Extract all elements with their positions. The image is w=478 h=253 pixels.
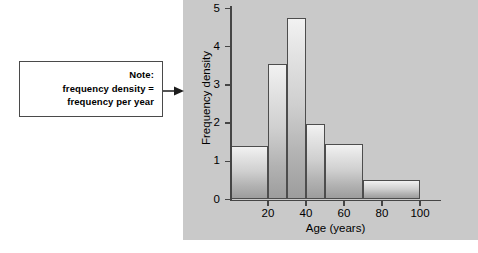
x-axis-title: Age (years) [230, 222, 441, 234]
y-axis-tick [225, 84, 230, 86]
note-line: frequency per year [63, 95, 154, 109]
figure-screenshot: 012345 20406080100 Frequency density Age… [0, 0, 478, 253]
y-axis-tick [225, 199, 230, 201]
histogram-bar [306, 124, 325, 200]
note-line: frequency density = [63, 82, 154, 96]
y-axis-tick [225, 46, 230, 48]
y-axis-tick-label: 5 [200, 3, 220, 15]
histogram-bar [268, 64, 287, 200]
y-axis-tick [225, 161, 230, 163]
x-axis-tick-label: 20 [253, 207, 283, 219]
x-axis-tick-label: 40 [291, 207, 321, 219]
note-text: Note: frequency density = frequency per … [63, 68, 154, 109]
x-axis-tick [267, 201, 269, 206]
histogram-bar [325, 144, 363, 199]
histogram-bar [363, 180, 420, 199]
y-axis-line [230, 6, 232, 201]
chart-panel: 012345 20406080100 Frequency density Age… [183, 0, 478, 240]
x-axis-line [230, 200, 441, 202]
note-line: Note: [63, 68, 154, 82]
x-axis-tick [343, 201, 345, 206]
histogram-plot: 012345 20406080100 Frequency density Age… [183, 0, 478, 240]
y-axis-tick [225, 122, 230, 124]
arrow-right-icon [163, 85, 185, 97]
note-callout-box: Note: frequency density = frequency per … [19, 61, 163, 117]
histogram-bar [287, 18, 306, 199]
x-axis-tick-label: 80 [367, 207, 397, 219]
x-axis-tick-label: 60 [329, 207, 359, 219]
x-axis-tick [419, 201, 421, 206]
y-axis-tick-label: 0 [200, 194, 220, 206]
y-axis-title: Frequency density [200, 33, 212, 163]
x-axis-tick [305, 201, 307, 206]
y-axis-tick [225, 8, 230, 10]
x-axis-tick [381, 201, 383, 206]
x-axis-tick-label: 100 [405, 207, 435, 219]
histogram-bar [230, 146, 268, 199]
